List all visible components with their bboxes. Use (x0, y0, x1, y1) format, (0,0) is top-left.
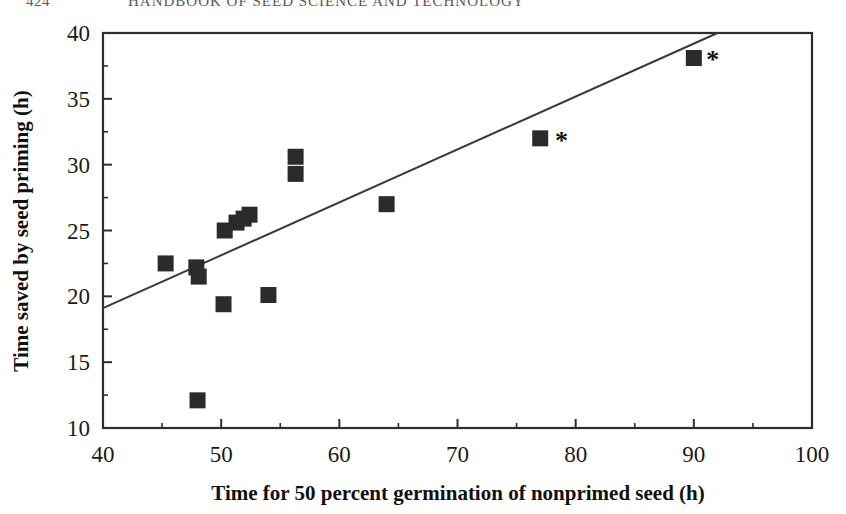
data-point (379, 196, 395, 212)
y-tick-label: 30 (67, 153, 90, 178)
plot-border (103, 33, 812, 428)
x-tick-label: 70 (446, 442, 469, 467)
figure-page: 424 HANDBOOK OF SEED SCIENCE AND TECHNOL… (0, 0, 846, 514)
x-axis-title: Time for 50 percent germination of nonpr… (211, 481, 704, 505)
x-tick-label: 60 (328, 442, 351, 467)
plot-frame (103, 33, 812, 428)
x-axis-tick-labels: 405060708090100 (92, 442, 830, 467)
y-axis-major-ticks (103, 33, 112, 428)
x-tick-label: 50 (210, 442, 233, 467)
y-tick-label: 25 (67, 219, 90, 244)
data-point (242, 207, 258, 223)
y-axis-tick-labels: 10152025303540 (67, 21, 90, 441)
x-tick-label: 100 (795, 442, 830, 467)
scatter-plot-svg: 405060708090100 10152025303540 ** Time f… (0, 0, 846, 514)
asterisk-annotation: * (706, 45, 719, 74)
scatter-chart-figure: 405060708090100 10152025303540 ** Time f… (0, 0, 846, 514)
data-point (216, 296, 232, 312)
y-axis-title: Time saved by seed priming (h) (9, 90, 33, 371)
x-tick-label: 80 (564, 442, 587, 467)
x-tick-label: 40 (92, 442, 115, 467)
data-point-markers (158, 50, 702, 408)
data-point (260, 287, 276, 303)
x-tick-label: 90 (682, 442, 705, 467)
data-point (158, 255, 174, 271)
data-point (190, 392, 206, 408)
asterisk-annotation: * (555, 126, 568, 155)
y-tick-label: 20 (67, 284, 90, 309)
y-tick-label: 15 (67, 350, 90, 375)
data-point (532, 130, 548, 146)
y-tick-label: 35 (67, 87, 90, 112)
x-axis-major-ticks (103, 419, 812, 428)
data-point (288, 166, 304, 182)
data-point (191, 269, 207, 285)
data-point (686, 50, 702, 66)
data-point (288, 149, 304, 165)
y-tick-label: 10 (67, 416, 90, 441)
y-tick-label: 40 (67, 21, 90, 46)
